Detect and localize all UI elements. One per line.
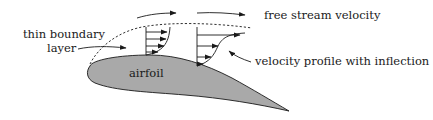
profile-pointer (229, 51, 251, 62)
free-stream-label: free stream velocity (264, 8, 381, 22)
boundary-layer-pointer (78, 47, 126, 49)
free-stream-arrow-left (137, 13, 176, 18)
boundary-layer-label-line1: thin boundary (23, 27, 106, 41)
inflection-velocity-profile (197, 27, 245, 66)
boundary-layer-label-line2: layer (47, 41, 77, 55)
inflection-profile-label: velocity profile with inflection (254, 54, 430, 68)
diagram-canvas: free stream velocity thin boundary layer… (0, 0, 433, 120)
free-stream-arrow-right (197, 13, 245, 15)
airfoil-label: airfoil (129, 66, 164, 80)
attached-velocity-profile (146, 27, 170, 55)
